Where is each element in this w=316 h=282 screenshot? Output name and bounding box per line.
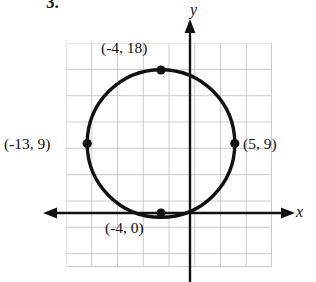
point-label-top: (-4, 18)	[101, 40, 148, 56]
x-axis-label: x	[296, 204, 303, 220]
point-bottom	[156, 208, 165, 217]
point-top	[156, 65, 165, 74]
point-label-left: (-13, 9)	[4, 136, 51, 152]
point-label-right: (5, 9)	[243, 136, 277, 152]
point-label-bottom: (-4, 0)	[105, 220, 144, 236]
circle-graph	[87, 70, 235, 218]
figure-page: 3.	[0, 0, 316, 282]
grid-lines	[66, 43, 272, 267]
point-left	[83, 139, 92, 148]
y-axis-label: y	[190, 2, 197, 18]
y-axis	[185, 19, 196, 282]
point-right	[230, 139, 239, 148]
